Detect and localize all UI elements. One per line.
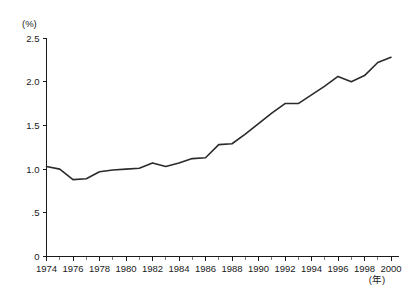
y-axis-unit-label: (%) [22,18,37,29]
x-tick-label: 1982 [142,263,163,274]
y-tick-label: 2.5 [26,33,39,44]
x-tick-label: 1980 [115,263,136,274]
x-tick-label: 1984 [168,263,189,274]
x-tick-label: 1976 [62,263,83,274]
x-tick-label: 1974 [36,263,57,274]
x-tick-label: 1988 [221,263,242,274]
x-tick-label: 1996 [327,263,348,274]
y-tick-label: 1.0 [26,164,39,175]
y-tick-label: .5 [32,207,40,218]
y-axis-ticks: 0.51.01.52.02.5 [26,33,46,263]
x-tick-label: 1978 [89,263,110,274]
data-series-line [47,57,392,179]
y-tick-label: 0 [34,251,39,262]
x-tick-label: 1992 [274,263,295,274]
line-chart: (%) 0.51.01.52.02.5 19741976197819801982… [0,0,415,292]
x-tick-label: 1998 [354,263,375,274]
x-tick-label: 2000 [380,263,401,274]
x-axis-unit-label: (年) [369,274,385,285]
x-tick-label: 1986 [195,263,216,274]
x-axis-ticks: 1974197619781980198219841986198819901992… [36,257,402,274]
x-tick-label: 1994 [301,263,322,274]
chart-svg: (%) 0.51.01.52.02.5 19741976197819801982… [0,0,415,292]
y-tick-label: 2.0 [26,76,39,87]
x-tick-label: 1990 [248,263,269,274]
y-tick-label: 1.5 [26,120,39,131]
